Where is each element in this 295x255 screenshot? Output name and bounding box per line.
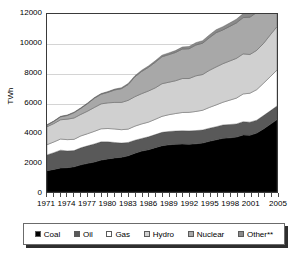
x-tick xyxy=(196,193,197,197)
x-tick xyxy=(162,193,163,197)
x-tick xyxy=(278,193,279,197)
x-tick xyxy=(80,193,81,197)
legend-item-nuclear[interactable]: Nuclear xyxy=(188,230,225,239)
y-tick-label: 2000 xyxy=(10,159,42,167)
x-tick xyxy=(169,193,170,197)
x-tick xyxy=(155,193,156,197)
y-axis-tick-labels: 020004000600080001000012000 xyxy=(10,0,42,200)
legend-item-label: Gas xyxy=(115,230,130,239)
x-tick xyxy=(189,193,190,197)
x-tick xyxy=(203,193,204,197)
y-tick-label: 6000 xyxy=(10,99,42,107)
x-tick xyxy=(114,193,115,197)
x-tick xyxy=(142,193,143,197)
x-axis-tick-labels: 1971197419771980198319861989199219951998… xyxy=(0,199,295,211)
x-tick xyxy=(210,193,211,197)
legend-item-label: Hydro xyxy=(153,230,174,239)
legend-item-label: Other** xyxy=(247,230,273,239)
x-tick xyxy=(258,193,259,197)
y-tick-label: 10000 xyxy=(10,39,42,47)
x-tick xyxy=(148,193,149,197)
x-tick xyxy=(128,193,129,197)
x-tick xyxy=(217,193,218,197)
legend-item-coal[interactable]: Coal xyxy=(35,230,60,239)
x-tick xyxy=(60,193,61,197)
y-tick-label: 8000 xyxy=(10,69,42,77)
x-tick xyxy=(230,193,231,197)
legend-swatch-icon xyxy=(238,231,244,237)
x-tick-label: 1980 xyxy=(99,199,117,208)
x-tick xyxy=(223,193,224,197)
legend-item-oil[interactable]: Oil xyxy=(74,230,93,239)
legend-swatch-icon xyxy=(74,231,80,237)
y-tick-label: 12000 xyxy=(10,9,42,17)
x-tick-label: 1998 xyxy=(221,199,239,208)
x-tick-label: 1986 xyxy=(139,199,157,208)
x-tick xyxy=(264,193,265,197)
chart-legend: CoalOilGasHydroNuclearOther** xyxy=(23,223,285,245)
legend-swatch-icon xyxy=(188,231,194,237)
legend-item-label: Nuclear xyxy=(197,230,225,239)
stacked-area-chart: TWh 020004000600080001000012000 19711974… xyxy=(0,0,295,255)
x-tick-label: 1995 xyxy=(201,199,219,208)
legend-item-gas[interactable]: Gas xyxy=(106,230,130,239)
x-tick xyxy=(271,193,272,197)
x-tick-label: 1974 xyxy=(58,199,76,208)
x-tick xyxy=(182,193,183,197)
legend-item-label: Oil xyxy=(83,230,93,239)
legend-item-label: Coal xyxy=(44,230,60,239)
y-tick-label: 0 xyxy=(10,189,42,197)
x-tick-label: 1971 xyxy=(37,199,55,208)
x-tick xyxy=(66,193,67,197)
x-tick xyxy=(94,193,95,197)
x-tick xyxy=(176,193,177,197)
legend-swatch-icon xyxy=(35,231,41,237)
x-tick xyxy=(121,193,122,197)
legend-swatch-icon xyxy=(144,231,150,237)
y-tick-label: 4000 xyxy=(10,129,42,137)
x-tick-label: 1983 xyxy=(119,199,137,208)
plot-area xyxy=(46,13,278,193)
x-tick xyxy=(101,193,102,197)
area-series-layer xyxy=(47,14,277,192)
x-tick xyxy=(73,193,74,197)
x-tick-label: 1977 xyxy=(78,199,96,208)
x-tick xyxy=(87,193,88,197)
x-tick xyxy=(251,193,252,197)
x-tick xyxy=(107,193,108,197)
x-tick-label: 2005 xyxy=(269,199,287,208)
x-tick-label: 2001 xyxy=(242,199,260,208)
legend-item-other[interactable]: Other** xyxy=(238,230,273,239)
x-tick xyxy=(53,193,54,197)
x-tick xyxy=(237,193,238,197)
x-tick xyxy=(135,193,136,197)
x-tick-label: 1992 xyxy=(180,199,198,208)
legend-item-hydro[interactable]: Hydro xyxy=(144,230,174,239)
legend-swatch-icon xyxy=(106,231,112,237)
x-tick-label: 1989 xyxy=(160,199,178,208)
x-tick xyxy=(244,193,245,197)
x-tick xyxy=(46,193,47,197)
